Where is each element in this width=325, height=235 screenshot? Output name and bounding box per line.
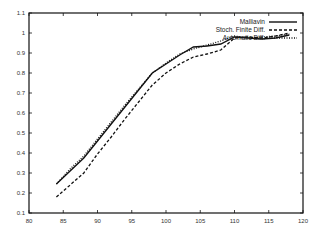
x-tick-label: 115 xyxy=(264,218,274,224)
plot-axes: 808590951001051101151200.10.20.30.40.50.… xyxy=(17,10,309,224)
x-tick-label: 120 xyxy=(298,218,309,224)
x-tick-label: 100 xyxy=(161,218,172,224)
x-tick-label: 90 xyxy=(94,218,101,224)
legend-label: Automatic Diff. xyxy=(223,34,265,41)
plot-frame xyxy=(29,13,303,213)
x-tick-label: 105 xyxy=(195,218,206,224)
y-tick-label: 1.1 xyxy=(17,10,26,16)
line-chart: 808590951001051101151200.10.20.30.40.50.… xyxy=(0,0,325,235)
series-lines xyxy=(56,33,289,197)
y-tick-label: 0.5 xyxy=(17,130,26,136)
x-tick-label: 85 xyxy=(60,218,67,224)
legend: MalliavinStoch. Finite Diff.Automatic Di… xyxy=(216,18,297,41)
x-tick-label: 95 xyxy=(128,218,135,224)
x-tick-label: 110 xyxy=(230,218,240,224)
legend-label: Stoch. Finite Diff. xyxy=(216,26,266,33)
y-tick-label: 0.2 xyxy=(17,190,26,196)
y-tick-label: 0.6 xyxy=(17,110,26,116)
y-tick-label: 0.4 xyxy=(17,150,26,156)
series-line-1 xyxy=(56,33,289,197)
y-tick-label: 0.7 xyxy=(17,90,26,96)
y-tick-label: 0.1 xyxy=(17,210,26,216)
y-tick-label: 0.8 xyxy=(17,70,26,76)
y-tick-label: 0.3 xyxy=(17,170,26,176)
legend-label: Malliavin xyxy=(240,18,266,25)
x-tick-label: 80 xyxy=(26,218,33,224)
y-tick-label: 1 xyxy=(22,30,26,36)
y-tick-label: 0.9 xyxy=(17,50,26,56)
